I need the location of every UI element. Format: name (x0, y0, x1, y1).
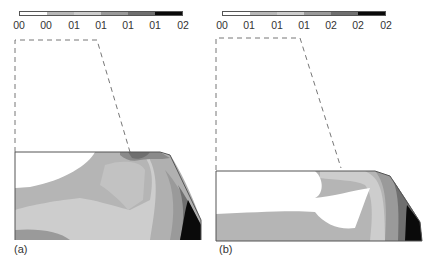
dashed-die-outline (15, 40, 130, 152)
caption-b: (b) (219, 243, 232, 255)
contour-plot-a (0, 0, 215, 268)
caption-a: (a) (14, 243, 27, 255)
panel-b: 00 01 01 01 02 02 02 (b) (215, 0, 437, 268)
dashed-die-outline (216, 38, 341, 170)
contour-plot-b (215, 0, 437, 268)
panel-a: 00 00 01 01 01 01 02 (a) (0, 0, 215, 268)
